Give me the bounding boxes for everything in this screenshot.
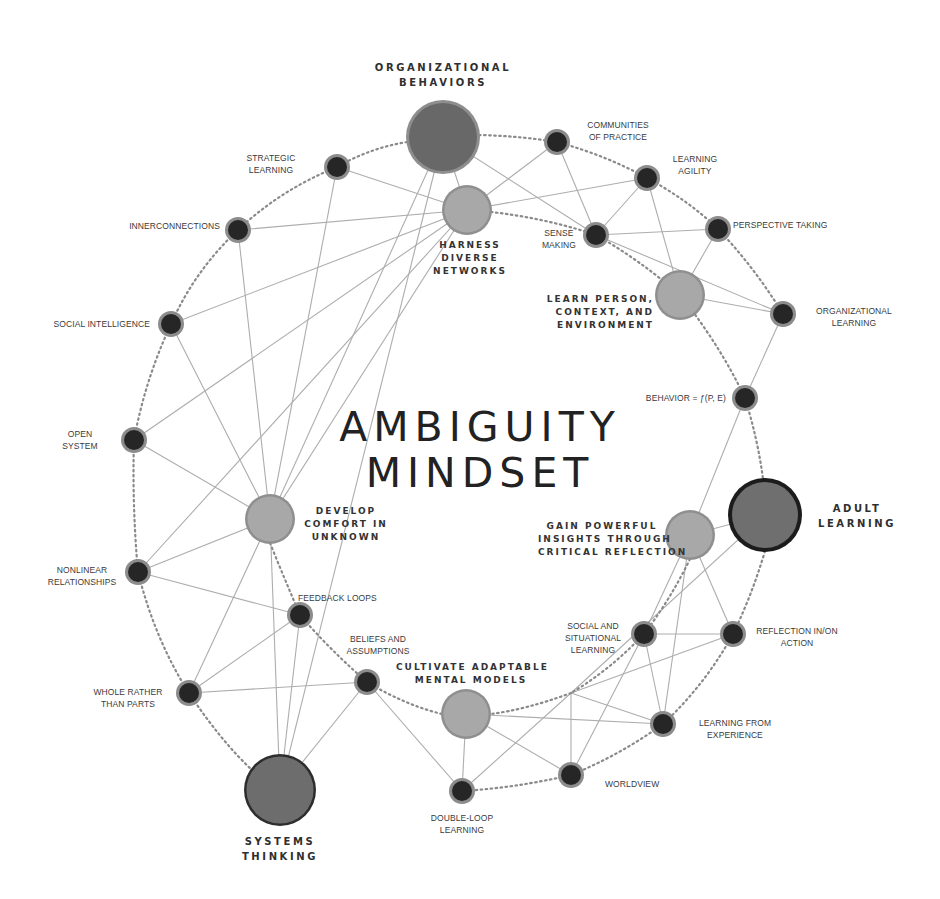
label-organizational-behaviors: ORGANIZATIONAL BEHAVIORS: [373, 60, 513, 90]
label-line: RELATIONSHIPS: [40, 576, 124, 588]
label-line: CULTIVATE ADAPTABLE: [396, 661, 546, 674]
node-learning-agility[interactable]: [634, 165, 660, 191]
label-line: DEVELOP: [296, 505, 396, 518]
label-line: SENSE: [537, 227, 581, 239]
label-worldview: WORLDVIEW: [605, 778, 685, 790]
label-line: NETWORKS: [420, 265, 520, 278]
node-communities-of-practice[interactable]: [544, 129, 570, 155]
node-systems-thinking[interactable]: [244, 754, 316, 826]
label-line: SYSTEM: [50, 440, 110, 452]
label-line: FEEDBACK LOOPS: [298, 592, 398, 604]
label-line: ACTION: [755, 637, 839, 649]
label-line: INNERCONNECTIONS: [120, 220, 220, 232]
label-line: CONTEXT, AND: [530, 306, 654, 319]
node-social-and-situational-learning[interactable]: [631, 621, 657, 647]
label-develop-comfort-in-unknown: DEVELOP COMFORT IN UNKNOWN: [296, 505, 396, 544]
label-line: ASSUMPTIONS: [340, 645, 416, 657]
label-line: LEARNING: [812, 516, 902, 531]
label-line: COMMUNITIES: [578, 119, 658, 131]
node-sense-making[interactable]: [583, 222, 609, 248]
label-line: SITUATIONAL: [560, 632, 626, 644]
label-line: LEARNING: [560, 644, 626, 656]
node-organizational-learning[interactable]: [770, 301, 796, 327]
node-harness-diverse-networks[interactable]: [442, 185, 492, 235]
label-double-loop-learning: DOUBLE-LOOP LEARNING: [420, 812, 504, 836]
label-social-intelligence: SOCIAL INTELLIGENCE: [40, 318, 150, 330]
node-worldview[interactable]: [558, 762, 584, 788]
label-line: SYSTEMS: [225, 834, 335, 849]
label-line: INSIGHTS THROUGH: [538, 533, 666, 546]
label-line: NONLINEAR: [40, 564, 124, 576]
label-line: ENVIRONMENT: [530, 319, 654, 332]
node-nonlinear-relationships[interactable]: [125, 559, 151, 585]
title-line-2: MINDSET: [320, 450, 640, 496]
label-beliefs-and-assumptions: BELIEFS AND ASSUMPTIONS: [340, 633, 416, 657]
node-double-loop-learning[interactable]: [449, 778, 475, 804]
node-strategic-learning[interactable]: [324, 154, 350, 180]
node-behavior-function[interactable]: [732, 385, 758, 411]
label-strategic-learning: STRATEGIC LEARNING: [236, 152, 306, 176]
label-line: LEARNING: [236, 164, 306, 176]
label-innerconnections: INNERCONNECTIONS: [120, 220, 220, 232]
label-line: LEARNING: [812, 317, 896, 329]
label-line: OF PRACTICE: [578, 131, 658, 143]
node-social-intelligence[interactable]: [158, 311, 184, 337]
label-line: UNKNOWN: [296, 531, 396, 544]
label-learn-person-context-environment: LEARN PERSON, CONTEXT, AND ENVIRONMENT: [530, 293, 654, 332]
label-reflection-in-on-action: REFLECTION IN/ON ACTION: [755, 625, 839, 649]
label-learning-from-experience: LEARNING FROM EXPERIENCE: [694, 717, 776, 741]
label-feedback-loops: FEEDBACK LOOPS: [298, 592, 398, 604]
node-develop-comfort-in-unknown[interactable]: [245, 494, 295, 544]
node-cultivate-adaptable-mental-models[interactable]: [441, 689, 491, 739]
label-line: THAN PARTS: [88, 698, 168, 710]
node-whole-rather-than-parts[interactable]: [176, 680, 202, 706]
label-line: SOCIAL INTELLIGENCE: [40, 318, 150, 330]
label-line: LEARNING: [665, 153, 725, 165]
label-line: BEHAVIORS: [373, 75, 513, 90]
node-innerconnections[interactable]: [225, 217, 251, 243]
node-reflection-in-on-action[interactable]: [720, 621, 746, 647]
label-line: COMFORT IN: [296, 518, 396, 531]
label-line: CRITICAL REFLECTION: [538, 546, 666, 559]
label-line: PERSPECTIVE TAKING: [733, 219, 843, 231]
node-perspective-taking[interactable]: [705, 216, 731, 242]
label-line: OPEN: [50, 428, 110, 440]
label-line: LEARNING: [420, 824, 504, 836]
label-line: AGILITY: [665, 165, 725, 177]
label-organizational-learning: ORGANIZATIONAL LEARNING: [812, 305, 896, 329]
node-learning-from-experience[interactable]: [650, 711, 676, 737]
label-systems-thinking: SYSTEMS THINKING: [225, 834, 335, 864]
label-gain-powerful-insights: GAIN POWERFUL INSIGHTS THROUGH CRITICAL …: [538, 520, 666, 559]
label-line: GAIN POWERFUL: [538, 520, 666, 533]
label-line: BELIEFS AND: [340, 633, 416, 645]
label-line: MAKING: [537, 239, 581, 251]
label-line: DIVERSE: [420, 252, 520, 265]
label-learning-agility: LEARNING AGILITY: [665, 153, 725, 177]
node-learn-person-context-environment[interactable]: [655, 270, 705, 320]
label-nonlinear-relationships: NONLINEAR RELATIONSHIPS: [40, 564, 124, 588]
node-organizational-behaviors[interactable]: [406, 100, 480, 174]
node-feedback-loops[interactable]: [287, 602, 313, 628]
label-line: WORLDVIEW: [605, 778, 685, 790]
label-line: REFLECTION IN/ON: [755, 625, 839, 637]
label-line: DOUBLE-LOOP: [420, 812, 504, 824]
label-line: STRATEGIC: [236, 152, 306, 164]
node-beliefs-and-assumptions[interactable]: [354, 669, 380, 695]
label-line: ORGANIZATIONAL: [812, 305, 896, 317]
label-line: LEARN PERSON,: [530, 293, 654, 306]
label-line: EXPERIENCE: [694, 729, 776, 741]
label-open-system: OPEN SYSTEM: [50, 428, 110, 452]
label-line: HARNESS: [420, 239, 520, 252]
label-line: THINKING: [225, 849, 335, 864]
label-communities-of-practice: COMMUNITIES OF PRACTICE: [578, 119, 658, 143]
label-line: LEARNING FROM: [694, 717, 776, 729]
title-line-1: AMBIGUITY: [320, 404, 640, 450]
label-whole-rather-than-parts: WHOLE RATHER THAN PARTS: [88, 686, 168, 710]
label-behavior-function: BEHAVIOR = ƒ(P, E): [620, 392, 726, 404]
label-line: WHOLE RATHER: [88, 686, 168, 698]
label-harness-diverse-networks: HARNESS DIVERSE NETWORKS: [420, 239, 520, 278]
label-line: BEHAVIOR = ƒ(P, E): [620, 392, 726, 404]
label-cultivate-adaptable-mental-models: CULTIVATE ADAPTABLE MENTAL MODELS: [396, 661, 546, 687]
node-open-system[interactable]: [121, 427, 147, 453]
node-adult-learning[interactable]: [728, 478, 802, 552]
